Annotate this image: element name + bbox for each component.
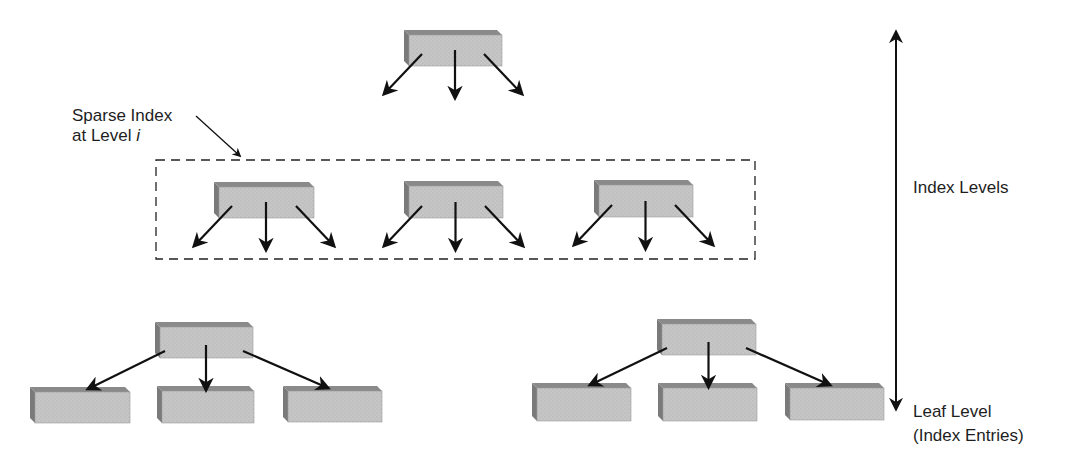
leaf-block <box>30 387 130 423</box>
sparse-level-block <box>404 181 503 218</box>
leaf-level-label-line1: Leaf Level <box>913 402 1024 422</box>
child-pointer-left-arrow <box>574 205 612 245</box>
leaf-block <box>532 383 631 421</box>
leaf-block <box>658 383 757 421</box>
sparse-index-pointer-arrow <box>196 116 240 156</box>
leaf-pointer-arrow <box>243 351 328 388</box>
sparse-index-label-line1: Sparse Index <box>72 106 172 126</box>
leaf-block <box>283 386 382 422</box>
sparse-index-label: Sparse Index at Level i <box>72 106 172 146</box>
leaf-block <box>157 386 254 423</box>
leaf-level-label-line2: (Index Entries) <box>913 426 1024 446</box>
sparse-level-block <box>594 180 693 217</box>
leaf-pointer-arrow <box>88 351 165 389</box>
child-pointer-left-arrow <box>384 206 422 246</box>
child-pointer-right-arrow <box>485 206 523 246</box>
index-levels-label: Index Levels <box>913 178 1008 198</box>
child-pointer-left-arrow <box>194 206 232 246</box>
sparse-level-block <box>214 182 314 218</box>
leaf-block <box>785 383 884 420</box>
child-pointer-right-arrow <box>484 54 522 94</box>
index-structure-diagram <box>0 0 1071 468</box>
child-pointer-left-arrow <box>384 54 422 94</box>
child-pointer-right-arrow <box>296 206 334 246</box>
leaf-level-label: Leaf Level (Index Entries) <box>913 402 1024 446</box>
index-blocks <box>30 30 884 423</box>
subtree-parent-block <box>657 319 756 355</box>
child-pointer-right-arrow <box>675 205 713 245</box>
root-index-block <box>404 30 502 66</box>
leaf-pointer-arrow <box>746 348 830 385</box>
subtree-parent-block <box>155 322 253 358</box>
leaf-pointer-arrow <box>590 348 667 385</box>
sparse-index-label-line2: at Level i <box>72 126 172 146</box>
